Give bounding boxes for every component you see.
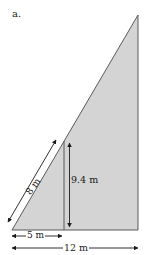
- total-base-dimension-label: 12 m: [63, 243, 89, 253]
- height-dimension-label: 9.4 m: [71, 175, 98, 185]
- triangle-shape: [12, 15, 138, 230]
- diagram-canvas: [0, 0, 150, 255]
- triangle-diagram: a. 8 m 9.4 m 5 m 12 m: [0, 0, 150, 255]
- part-label: a.: [12, 9, 21, 19]
- inner-base-dimension-label: 5 m: [26, 231, 45, 240]
